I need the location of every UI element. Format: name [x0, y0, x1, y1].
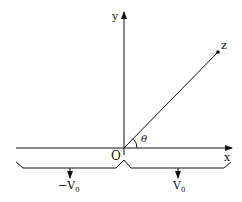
z-point: [216, 50, 220, 54]
z-label: z: [221, 40, 227, 51]
right-potential-value: V: [173, 179, 181, 192]
theta-label: θ: [141, 134, 147, 144]
z-line: [124, 52, 218, 148]
diagram-canvas: [0, 0, 242, 202]
right-potential-label: V0: [173, 180, 185, 194]
origin-label: O: [111, 150, 121, 162]
theta-arc: [134, 139, 138, 148]
right-plate: [124, 160, 231, 168]
right-potential-subscript: 0: [181, 186, 185, 194]
x-axis-label: x: [224, 152, 230, 163]
y-axis-label: y: [112, 11, 118, 22]
left-potential-value: −V: [58, 179, 75, 192]
left-potential-subscript: 0: [75, 186, 79, 194]
left-potential-label: −V0: [58, 180, 80, 194]
left-plate: [16, 160, 124, 168]
